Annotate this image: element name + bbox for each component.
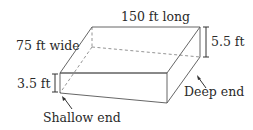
width-label: 75 ft wide bbox=[16, 38, 80, 53]
deep-end-label: Deep end bbox=[184, 84, 244, 99]
pool-diagram: 150 ft long 75 ft wide 5.5 ft 3.5 ft Dee… bbox=[0, 0, 253, 130]
top-face bbox=[60, 27, 200, 73]
deep-depth-marker bbox=[203, 27, 209, 57]
hidden-edge-back-bottom bbox=[92, 47, 200, 57]
shallow-depth-marker bbox=[52, 74, 58, 92]
front-face bbox=[60, 73, 167, 103]
hidden-edge-left-bottom bbox=[60, 47, 92, 93]
shallow-depth-label: 3.5 ft bbox=[17, 76, 51, 91]
visible-edges bbox=[60, 27, 200, 103]
hidden-edges bbox=[60, 27, 200, 93]
shallow-end-arrow bbox=[62, 96, 72, 109]
deep-depth-label: 5.5 ft bbox=[211, 34, 245, 49]
length-label: 150 ft long bbox=[121, 9, 190, 24]
shallow-end-label: Shallow end bbox=[43, 110, 121, 125]
